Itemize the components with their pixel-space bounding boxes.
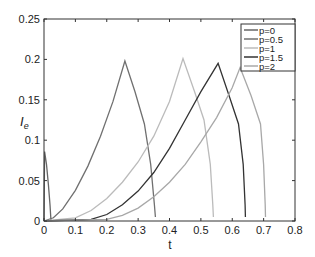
x-tick-label: 0.4	[162, 224, 177, 236]
y-tick-label: 0.25	[19, 13, 40, 25]
x-tick-label: 0.1	[68, 224, 83, 236]
x-axis-label: t	[168, 238, 172, 252]
series-line-0	[44, 152, 52, 222]
y-axis-label: Ie	[20, 114, 29, 131]
line-chart: 00.10.20.30.40.50.60.70.8 00.050.10.150.…	[0, 0, 315, 257]
y-tick-label: 0.1	[25, 134, 40, 146]
y-tick-label: 0.2	[25, 53, 40, 65]
x-tick-label: 0.7	[256, 224, 271, 236]
y-tick-label: 0.05	[19, 175, 40, 187]
plot-series-group	[44, 59, 266, 221]
y-tick-label: 0	[34, 215, 40, 227]
y-axis-label-subscript: e	[24, 121, 29, 131]
x-tick-label: 0.3	[130, 224, 145, 236]
x-tick-label: 0.8	[287, 224, 302, 236]
x-tick-label: 0	[41, 224, 47, 236]
x-tick-label: 0.5	[193, 224, 208, 236]
y-tick-label: 0.15	[19, 94, 40, 106]
legend: p=0p=0.5p=1p=1.5p=2	[241, 24, 295, 72]
legend-label: p=2	[259, 61, 275, 72]
x-tick-label: 0.6	[225, 224, 240, 236]
series-line-1	[44, 61, 155, 221]
series-line-2	[44, 59, 213, 221]
series-line-4	[44, 68, 266, 222]
series-line-3	[44, 63, 245, 221]
x-tick-label: 0.2	[99, 224, 114, 236]
